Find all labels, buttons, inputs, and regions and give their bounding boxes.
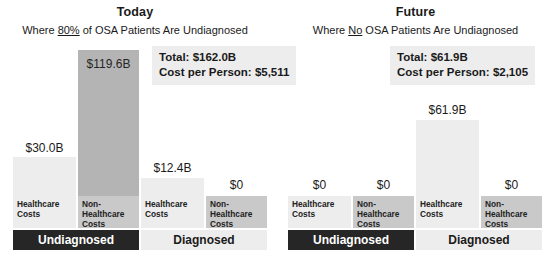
series-cell-future-undiagnosed-nonhealthcare: Non-Healthcare Costs bbox=[353, 196, 414, 228]
group-band-today-undiagnosed: Undiagnosed bbox=[13, 230, 139, 250]
series-cell-future-diagnosed-nonhealthcare: Non-Healthcare Costs bbox=[481, 196, 542, 228]
bar-today-diagnosed-healthcare bbox=[141, 178, 204, 196]
group-band-future-diagnosed: Diagnosed bbox=[416, 230, 542, 250]
series-cell-future-diagnosed-healthcare: Healthcare Costs bbox=[416, 196, 479, 228]
bar-label-today-diagnosed-nonhealthcare: $0 bbox=[204, 178, 269, 192]
series-cell-today-diagnosed-nonhealthcare: Non-Healthcare Costs bbox=[206, 196, 267, 228]
bar-label-today-diagnosed-healthcare: $12.4B bbox=[136, 161, 209, 175]
bar-today-undiagnosed-nonhealthcare bbox=[78, 50, 139, 196]
group-band-future-undiagnosed: Undiagnosed bbox=[288, 230, 414, 250]
bar-label-future-diagnosed-healthcare: $61.9B bbox=[411, 103, 484, 117]
group-band-today-diagnosed: Diagnosed bbox=[141, 230, 267, 250]
chart-panel-future: Future Where No OSA Patients Are Undiagn… bbox=[278, 0, 553, 265]
plot-area-future: $0 $0 $61.9B $0 Healthcare Costs Non-Hea… bbox=[278, 0, 553, 265]
series-cell-today-undiagnosed-healthcare: Healthcare Costs bbox=[13, 196, 76, 228]
chart-panel-today: Today Where 80% of OSA Patients Are Undi… bbox=[0, 0, 270, 265]
bar-label-today-undiagnosed-nonhealthcare: $119.6B bbox=[76, 57, 141, 71]
bar-label-future-diagnosed-nonhealthcare: $0 bbox=[479, 178, 544, 192]
bar-future-diagnosed-healthcare bbox=[416, 120, 479, 196]
bar-label-future-undiagnosed-nonhealthcare: $0 bbox=[351, 178, 416, 192]
series-cell-today-undiagnosed-nonhealthcare: Non-Healthcare Costs bbox=[78, 196, 139, 228]
series-cell-today-diagnosed-healthcare: Healthcare Costs bbox=[141, 196, 204, 228]
bar-today-undiagnosed-healthcare bbox=[13, 157, 76, 196]
bar-label-future-undiagnosed-healthcare: $0 bbox=[283, 178, 356, 192]
plot-area-today: $30.0B $119.6B $12.4B $0 Healthcare Cost… bbox=[0, 0, 270, 265]
bar-label-today-undiagnosed-healthcare: $30.0B bbox=[8, 141, 81, 155]
series-cell-future-undiagnosed-healthcare: Healthcare Costs bbox=[288, 196, 351, 228]
